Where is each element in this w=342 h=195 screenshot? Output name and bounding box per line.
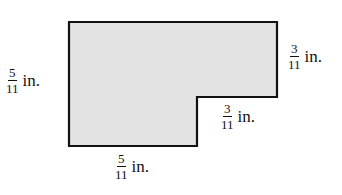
denominator: 11 xyxy=(6,81,19,95)
unit: in. xyxy=(238,108,255,125)
numerator: 5 xyxy=(117,152,126,167)
left-side-label: 5 11 in. xyxy=(6,66,40,95)
denominator: 11 xyxy=(288,57,301,71)
bottom-side-label: 5 11 in. xyxy=(115,152,149,181)
unit: in. xyxy=(305,48,322,65)
l-shaped-figure xyxy=(0,0,342,195)
fraction: 3 11 xyxy=(221,102,234,131)
right-side-label: 3 11 in. xyxy=(288,42,322,71)
fraction: 5 11 xyxy=(115,152,128,181)
unit: in. xyxy=(132,158,149,175)
fraction: 5 11 xyxy=(6,66,19,95)
denominator: 11 xyxy=(115,167,128,181)
numerator: 3 xyxy=(290,42,299,57)
numerator: 5 xyxy=(8,66,17,81)
numerator: 3 xyxy=(223,102,232,117)
step-side-label: 3 11 in. xyxy=(221,102,255,131)
denominator: 11 xyxy=(221,117,234,131)
unit: in. xyxy=(23,72,40,89)
fraction: 3 11 xyxy=(288,42,301,71)
